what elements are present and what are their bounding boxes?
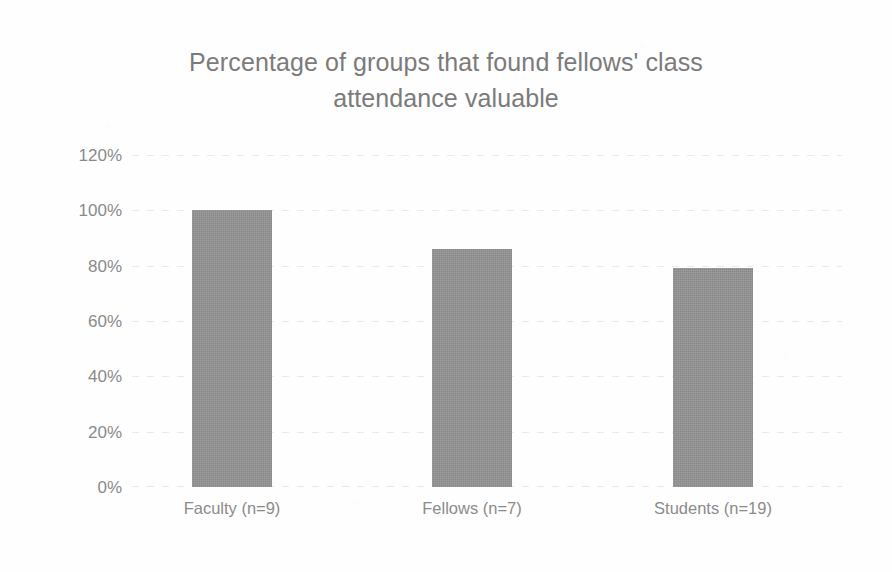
bar-faculty <box>192 210 272 487</box>
plot-area <box>132 155 842 487</box>
x-tick-label-students: Students (n=19) <box>603 498 823 518</box>
y-tick-label-40: 40% <box>44 368 122 385</box>
y-tick-label-0: 0% <box>44 479 122 496</box>
x-tick-label-faculty: Faculty (n=9) <box>122 498 342 518</box>
gridline-120 <box>132 155 842 156</box>
x-tick-label-fellows: Fellows (n=7) <box>362 498 582 518</box>
chart-figure: Percentage of groups that found fellows'… <box>0 0 892 572</box>
x-axis-tick-labels: Faculty (n=9) Fellows (n=7) Students (n=… <box>132 498 842 524</box>
y-tick-label-60: 60% <box>44 313 122 330</box>
chart-title: Percentage of groups that found fellows'… <box>96 44 796 116</box>
bar-fellows <box>432 249 512 487</box>
bar-students <box>673 268 753 487</box>
y-tick-label-20: 20% <box>44 423 122 440</box>
y-axis-tick-labels: 120% 100% 80% 60% 40% 20% 0% <box>44 155 122 487</box>
y-tick-label-120: 120% <box>44 147 122 164</box>
y-tick-label-100: 100% <box>44 202 122 219</box>
y-tick-label-80: 80% <box>44 257 122 274</box>
